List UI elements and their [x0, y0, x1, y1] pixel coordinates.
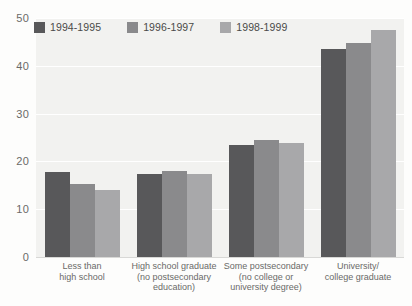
y-axis-tick-0: 0 — [23, 252, 29, 263]
legend-item-1998-1999[interactable]: 1998-1999 — [220, 22, 287, 33]
bar-1996-1997-1[interactable] — [162, 171, 187, 257]
y-axis-tick-30: 30 — [16, 108, 29, 119]
bar-group-1 — [128, 18, 220, 257]
bar-1994-1995-3[interactable] — [321, 49, 346, 257]
x-axis-label-2: Some postsecondary (no college or univer… — [220, 261, 312, 293]
legend-label: 1998-1999 — [236, 22, 287, 33]
bar-1998-1999-2[interactable] — [279, 143, 304, 257]
y-axis-tick-40: 40 — [16, 60, 29, 71]
x-axis-label-0: Less than high school — [36, 261, 128, 293]
bar-1994-1995-1[interactable] — [137, 174, 162, 257]
bar-1994-1995-0[interactable] — [45, 172, 70, 257]
x-axis-labels: Less than high schoolHigh school graduat… — [36, 261, 404, 293]
bar-1998-1999-0[interactable] — [95, 190, 120, 257]
bar-group-0 — [36, 18, 128, 257]
x-axis-label-1: High school graduate (no postsecondary e… — [128, 261, 220, 293]
bar-1994-1995-2[interactable] — [229, 145, 254, 257]
y-axis: 01020304050 — [0, 0, 34, 306]
x-axis-label-3: University/ college graduate — [312, 261, 404, 293]
bar-group-2 — [220, 18, 312, 257]
legend-label: 1994-1995 — [50, 22, 101, 33]
legend-swatch-icon — [127, 22, 138, 33]
legend-label: 1996-1997 — [143, 22, 194, 33]
axis-baseline — [36, 257, 404, 258]
bar-groups — [36, 18, 404, 257]
bar-chart: 01020304050 1994-19951996-19971998-1999 … — [0, 0, 412, 306]
bar-group-3 — [312, 18, 404, 257]
y-axis-tick-20: 20 — [16, 156, 29, 167]
legend-swatch-icon — [34, 22, 45, 33]
bar-1998-1999-1[interactable] — [187, 174, 212, 257]
bar-1996-1997-2[interactable] — [254, 140, 279, 257]
y-axis-tick-50: 50 — [16, 13, 29, 24]
legend-item-1996-1997[interactable]: 1996-1997 — [127, 22, 194, 33]
legend: 1994-19951996-19971998-1999 — [34, 22, 287, 33]
bar-1998-1999-3[interactable] — [371, 30, 396, 257]
bar-1996-1997-0[interactable] — [70, 184, 95, 257]
bar-1996-1997-3[interactable] — [346, 43, 371, 257]
legend-item-1994-1995[interactable]: 1994-1995 — [34, 22, 101, 33]
y-axis-tick-10: 10 — [16, 204, 29, 215]
legend-swatch-icon — [220, 22, 231, 33]
